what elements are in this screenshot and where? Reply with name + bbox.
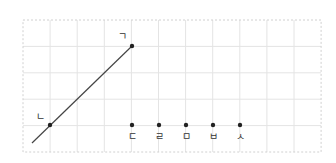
point-label: ㄷ xyxy=(128,131,137,142)
point-label: ㅂ xyxy=(209,131,218,142)
point-marker xyxy=(157,123,161,127)
point-marker xyxy=(184,123,188,127)
point-marker xyxy=(130,123,134,127)
point-marker xyxy=(130,44,134,48)
grid-diagram: ㄱㄴㄷㄹㅁㅂㅅ xyxy=(0,0,336,163)
point-label: ㄹ xyxy=(155,131,164,142)
diagonal-line xyxy=(32,46,132,143)
point-label: ㅁ xyxy=(182,131,191,142)
point-marker xyxy=(48,123,52,127)
grid-border xyxy=(23,20,321,152)
point-label: ㅅ xyxy=(236,131,245,142)
point-label: ㄱ xyxy=(118,31,127,42)
point-marker xyxy=(238,123,242,127)
line-segment xyxy=(32,46,132,143)
grid-lines xyxy=(23,20,321,152)
point-marker xyxy=(211,123,215,127)
point-label: ㄴ xyxy=(36,111,45,122)
